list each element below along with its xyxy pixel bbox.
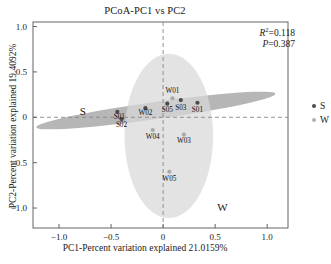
y-tick-label: −1.0 [4,203,27,213]
r-squared-value: =0.118 [269,28,295,38]
point-label-s02: S02 [116,121,127,129]
y-tick-label: 1.0 [4,22,27,32]
point-label-w04: W04 [146,133,160,141]
data-point-w04 [151,128,155,132]
data-point-w05 [167,170,171,174]
p-value: =0.387 [268,39,295,49]
point-label-w02: W02 [138,109,152,117]
legend-label: W [320,113,329,127]
x-tick-label: −0.5 [103,232,119,242]
data-point-s01 [195,101,199,105]
legend-dot-icon [312,118,316,122]
x-tick-label: 0.5 [210,232,221,242]
point-label-s01: S01 [192,106,203,114]
point-label-w03: W03 [177,137,191,145]
legend-item-w[interactable]: W [312,113,329,127]
y-axis-title: PC2-Percent variation explained 19.4092% [8,18,18,234]
data-point-s03 [179,98,183,102]
data-point-w03 [182,132,186,136]
x-tick-label: 0 [161,232,166,242]
p-value-line: P=0.387 [260,39,295,50]
legend-label: S [320,99,325,113]
x-tick-label: 1.0 [262,232,273,242]
x-tick-label: −1.0 [51,232,67,242]
group-label-s: S [80,105,86,117]
point-label-w05: W05 [162,175,176,183]
stats-annotation: R2=0.118 P=0.387 [260,24,295,50]
y-tick-label: 0.5 [4,67,27,77]
legend-dot-icon [312,104,316,108]
y-tick-label: 0 [4,112,27,122]
point-label-s01: S01 [114,113,125,121]
y-tick-label: −0.5 [4,158,27,168]
legend: SW [312,99,329,127]
point-label-w01: W01 [165,87,179,95]
point-label-s03: S03 [175,104,186,112]
r-squared-line: R2=0.118 [260,24,295,39]
group-label-w: W [217,201,227,213]
point-label-s05: S05 [162,106,173,114]
legend-item-s[interactable]: S [312,99,329,113]
data-point-w01 [170,96,174,100]
confidence-ellipse-w [125,54,213,218]
pcoa-scatter-figure: PCoA-PC1 vs PC2 R2=0.118 P=0.387 PC1-Per… [0,0,331,264]
x-axis-title: PC1-Percent variation explained 21.0159% [0,243,290,253]
data-point-s05 [165,102,169,106]
